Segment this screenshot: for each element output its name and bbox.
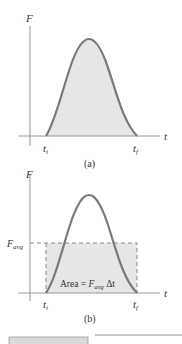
t-start-label-b: ti bbox=[43, 298, 48, 312]
x-axis-label-a: t bbox=[164, 130, 168, 142]
x-axis-label-b: t bbox=[164, 287, 168, 299]
area-annotation: Area = Favg Δt bbox=[60, 279, 115, 290]
y-axis-label-b: F bbox=[25, 168, 33, 180]
f-avg-label: Favg bbox=[6, 238, 24, 251]
caption-b: (b) bbox=[84, 313, 96, 325]
panel-b: F t Favg Area = Favg Δt ti tf (b) bbox=[6, 168, 168, 325]
caption-a: (a) bbox=[84, 158, 95, 170]
t-start-label-a: ti bbox=[43, 142, 48, 156]
t-end-label-b: tf bbox=[133, 298, 139, 312]
t-end-label-a: tf bbox=[133, 142, 139, 156]
curve-fill-a bbox=[46, 39, 137, 136]
panel-a: F t ti tf (a) bbox=[18, 12, 168, 170]
impulse-diagram: F t ti tf (a) F t Favg Area = Favg Δt ti… bbox=[0, 0, 182, 344]
footer-box bbox=[9, 337, 88, 344]
y-axis-label-a: F bbox=[25, 12, 33, 24]
